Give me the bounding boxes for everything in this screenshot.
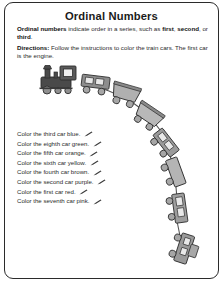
- instruction-text: Color the third car blue.: [17, 130, 80, 137]
- instruction-text: Color the fifth car orange.: [17, 149, 86, 156]
- pencil-icon: [84, 131, 93, 137]
- pencil-icon: [79, 189, 88, 195]
- instruction-text: Color the seventh car pink.: [17, 197, 90, 204]
- pencil-icon: [97, 179, 106, 185]
- instruction-text: Color the sixth car yellow.: [17, 159, 86, 166]
- pencil-icon: [93, 141, 102, 147]
- train-car-6-flat-car: [159, 157, 186, 190]
- train-car-5-passenger-car: [148, 128, 180, 161]
- list-item: Color the sixth car yellow.: [17, 158, 129, 168]
- list-item: Color the first car red.: [17, 187, 129, 197]
- list-item: Color the second car purple.: [17, 177, 129, 187]
- instruction-text: Color the first car red.: [17, 188, 76, 195]
- list-item: Color the seventh car pink.: [17, 196, 129, 206]
- worksheet-page: Ordinal Numbers Ordinal numbers indicate…: [4, 2, 219, 279]
- instruction-text: Color the eighth car green.: [17, 140, 89, 147]
- pencil-icon: [90, 160, 99, 166]
- list-item: Color the fifth car orange.: [17, 148, 129, 158]
- train-car-7-passenger-car: [165, 193, 188, 224]
- train-car-2-passenger-car: [80, 74, 110, 96]
- instruction-text: Color the fourth car brown.: [17, 168, 89, 175]
- train-car-1-locomotive-engine: [40, 66, 77, 95]
- instruction-list: Color the third car blue. Color the eigh…: [17, 129, 129, 206]
- list-item: Color the eighth car green.: [17, 139, 129, 149]
- instruction-text: Color the second car purple.: [17, 178, 94, 185]
- pencil-icon: [89, 151, 98, 157]
- train-car-8-caboose-car: [167, 231, 201, 267]
- list-item: Color the third car blue.: [17, 129, 129, 139]
- list-item: Color the fourth car brown.: [17, 167, 129, 177]
- pencil-icon: [93, 199, 102, 205]
- pencil-icon: [93, 170, 102, 176]
